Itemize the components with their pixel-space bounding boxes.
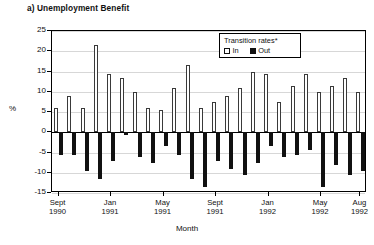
bar-group [105, 31, 118, 191]
x-tick-month: Sept [189, 198, 241, 207]
bar-group [144, 31, 157, 191]
bar-out [295, 132, 299, 154]
x-axis-tick-label: Sept1991 [189, 198, 241, 216]
legend-label: Out [258, 47, 270, 55]
bar-group [315, 31, 328, 191]
bar-out [243, 132, 247, 175]
bar-in [277, 102, 281, 132]
x-axis-tick-mark [359, 192, 360, 196]
bar-in [251, 72, 255, 133]
bar-out [177, 132, 181, 154]
x-tick-year: 1992 [242, 207, 294, 216]
legend: Transition rates* InOut [219, 33, 301, 58]
y-axis-tick-label: -5 [24, 148, 46, 156]
x-axis-title: Month [0, 224, 374, 233]
x-tick-month: Jan [242, 198, 294, 207]
bar-group [301, 31, 314, 191]
bar-in [291, 86, 295, 133]
bar-out [111, 132, 115, 160]
bar-out [59, 132, 63, 154]
y-axis-tick-mark [47, 131, 51, 132]
x-axis-tick-mark [110, 192, 111, 196]
unemployment-benefit-chart: a) Unemployment Benefit % 2520151050-5-1… [0, 0, 374, 245]
bar-out [229, 132, 233, 168]
bar-group [118, 31, 131, 191]
x-tick-month: Aug [333, 198, 374, 207]
x-axis-tick-label: May1991 [137, 198, 189, 216]
bar-group [91, 31, 104, 191]
bar-group [183, 31, 196, 191]
bar-out [361, 132, 365, 170]
bar-in [54, 108, 58, 132]
bar-out [269, 132, 273, 146]
bar-in [225, 96, 229, 132]
y-axis-tick-label: 15 [24, 67, 46, 75]
x-tick-year: 1991 [137, 207, 189, 216]
bar-in [199, 108, 203, 132]
x-tick-year: 1990 [32, 207, 84, 216]
bar-group [157, 31, 170, 191]
bar-in [107, 74, 111, 133]
x-tick-year: 1991 [189, 207, 241, 216]
bar-group [354, 31, 367, 191]
y-axis-tick-mark [47, 111, 51, 112]
bar-in [186, 65, 190, 132]
gridline [52, 193, 365, 194]
y-axis-tick-mark [47, 152, 51, 153]
y-axis-tick-label: 20 [24, 46, 46, 54]
bar-in [146, 108, 150, 132]
x-axis-tick-mark [268, 192, 269, 196]
bar-in [356, 92, 360, 133]
bar-group [196, 31, 209, 191]
legend-entry: Out [250, 47, 270, 55]
bar-out [138, 132, 142, 156]
plot-area [52, 31, 365, 191]
y-axis-title: % [9, 104, 16, 113]
bar-in [120, 78, 124, 133]
bar-in [172, 88, 176, 133]
x-axis-tick-mark [163, 192, 164, 196]
x-tick-year: 1992 [333, 207, 374, 216]
bar-in [212, 102, 216, 132]
x-axis-tick-mark [215, 192, 216, 196]
y-axis-tick-label: 5 [24, 107, 46, 115]
bar-out [72, 132, 76, 154]
legend-title: Transition rates* [224, 36, 300, 45]
x-axis-tick-label: Jan1991 [84, 198, 136, 216]
bar-in [159, 110, 163, 132]
hollow-square-icon [224, 48, 230, 54]
y-axis-tick-label: 0 [24, 127, 46, 135]
y-axis-tick-label: -10 [24, 168, 46, 176]
bar-in [330, 86, 334, 133]
filled-square-icon [250, 48, 256, 54]
y-axis-tick-mark [47, 30, 51, 31]
y-axis-tick-labels: 2520151050-5-10-15 [20, 30, 46, 192]
legend-label: In [233, 47, 239, 55]
page-title: a) Unemployment Benefit [27, 3, 129, 13]
bar-in [317, 92, 321, 133]
bar-in [94, 45, 98, 132]
y-axis-tick-mark [47, 71, 51, 72]
x-axis-tick-label: Jan1992 [242, 198, 294, 216]
bar-out [321, 132, 325, 187]
bar-out [216, 132, 220, 160]
x-axis-tick-label: Aug1992 [333, 198, 374, 216]
x-axis-tick-mark [58, 192, 59, 196]
bar-out [348, 132, 352, 175]
bar-group [52, 31, 65, 191]
y-axis-tick-mark [47, 192, 51, 193]
bar-out [124, 132, 128, 135]
bar-group [328, 31, 341, 191]
bar-out [282, 132, 286, 156]
bar-out [256, 132, 260, 162]
bar-in [67, 96, 71, 132]
bar-out [190, 132, 194, 179]
bar-in [304, 74, 308, 133]
y-axis-tick-mark [47, 172, 51, 173]
bar-in [343, 78, 347, 133]
x-axis-tick-label: Sept1990 [32, 198, 84, 216]
bar-out [151, 132, 155, 162]
bar-out [98, 132, 102, 179]
y-axis-tick-mark [47, 50, 51, 51]
bar-group [131, 31, 144, 191]
